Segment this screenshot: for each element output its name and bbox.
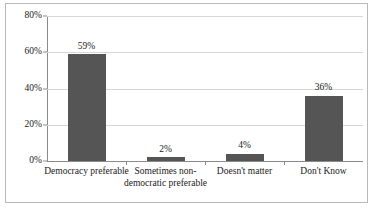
bar-slot: 59%Democracy preferable xyxy=(47,16,126,161)
bar[interactable] xyxy=(226,154,264,161)
bar-slot: 36%Don't Know xyxy=(284,16,363,161)
plot-area: 0%20%40%60%80% 59%Democracy preferable2%… xyxy=(47,16,363,161)
bar-value-label: 36% xyxy=(315,83,332,93)
x-axis-category-label: Don't Know xyxy=(281,166,367,178)
x-axis-category-label: Democracy preferable xyxy=(44,166,130,178)
bar-value-label: 59% xyxy=(78,42,95,52)
x-axis-category-label: Sometimes non-democratic preferable xyxy=(123,166,209,189)
x-axis-separator xyxy=(126,161,127,165)
x-axis-category-label: Doesn't matter xyxy=(202,166,288,178)
y-axis-tick-label: 20% xyxy=(25,120,42,130)
x-axis-separator xyxy=(284,161,285,165)
bar[interactable] xyxy=(147,157,185,161)
bar[interactable] xyxy=(305,96,343,161)
x-axis-separator xyxy=(205,161,206,165)
chart-frame: 0%20%40%60%80% 59%Democracy preferable2%… xyxy=(5,3,368,203)
bar-value-label: 4% xyxy=(238,141,251,151)
bar-slot: 2%Sometimes non-democratic preferable xyxy=(126,16,205,161)
y-axis-tick-label: 40% xyxy=(25,84,42,94)
y-axis-tick-label: 0% xyxy=(29,156,42,166)
y-axis-tick-label: 60% xyxy=(25,48,42,58)
bar[interactable] xyxy=(68,54,106,161)
y-axis-tick-label: 80% xyxy=(25,11,42,21)
bar-slot: 4%Doesn't matter xyxy=(205,16,284,161)
bar-value-label: 2% xyxy=(159,145,172,155)
